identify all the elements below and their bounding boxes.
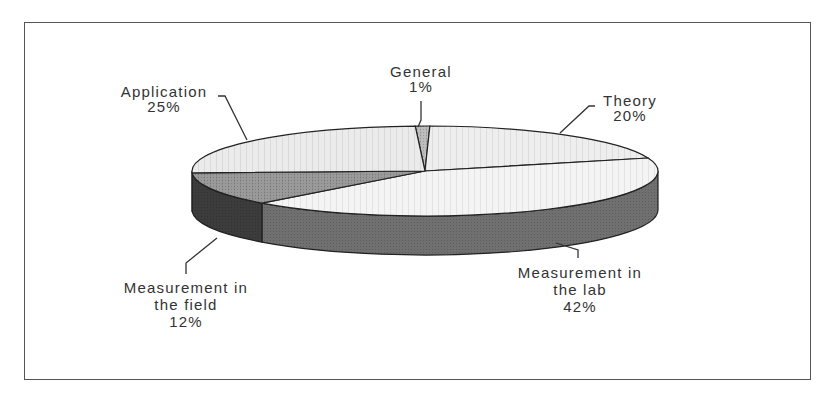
label-theory-name: Theory [590,93,670,108]
label-field-name: Measurement in [106,279,266,296]
label-lab: Measurement in the lab 42% [500,264,660,315]
leader-field [186,238,217,274]
leader-general [418,101,421,127]
label-general-pct: 1% [381,79,461,94]
pie-chart [0,0,834,404]
label-field-sub: the field [106,296,266,313]
label-application-pct: 25% [110,99,218,114]
label-lab-name: Measurement in [500,264,660,281]
label-lab-sub: the lab [500,281,660,298]
label-application: Application 25% [110,84,218,114]
label-general-name: General [381,64,461,79]
pie-top [192,126,658,216]
label-application-name: Application [110,84,218,99]
label-theory: Theory 20% [590,93,670,123]
label-field-pct: 12% [106,313,266,330]
label-field: Measurement in the field 12% [106,279,266,330]
label-general: General 1% [381,64,461,94]
label-theory-pct: 20% [590,108,670,123]
leader-application [218,96,247,140]
label-lab-pct: 42% [500,298,660,315]
